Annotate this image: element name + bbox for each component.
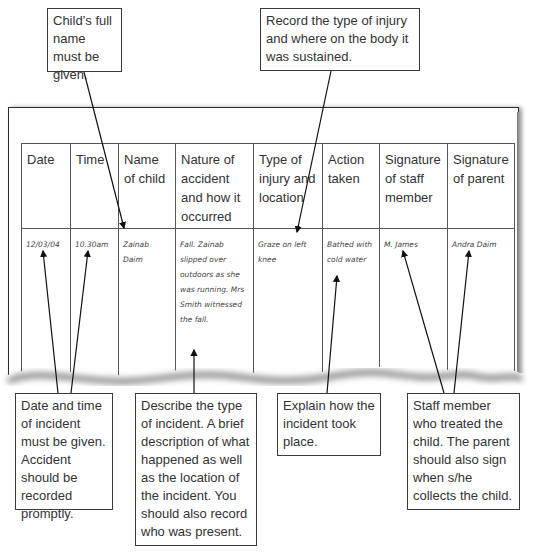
header-parent-signature: Signature of parent xyxy=(448,144,515,229)
callout-explain-incident: Explain how the incident took place. xyxy=(277,393,381,456)
header-date: Date xyxy=(22,144,71,229)
header-type-of-injury: Type of injury and location xyxy=(254,144,323,229)
header-name-of-child: Name of child xyxy=(119,144,176,229)
header-action-taken: Action taken xyxy=(323,144,380,229)
header-nature-of-accident: Nature of accident and how it occurred xyxy=(176,144,254,229)
callout-staff-member: Staff member who treated the child. The … xyxy=(407,393,520,510)
table-header-row: Date Time Name of child Nature of accide… xyxy=(22,144,515,229)
header-time: Time xyxy=(71,144,119,229)
callout-child-name: Child’s full name must be given. xyxy=(47,8,122,72)
header-staff-signature: Signature of staff member xyxy=(380,144,448,229)
callout-injury-record: Record the type of injury and where on t… xyxy=(260,8,420,71)
callout-describe-incident: Describe the type of incident. A brief d… xyxy=(135,393,257,546)
accident-record-table: Date Time Name of child Nature of accide… xyxy=(21,143,515,388)
paper-shadow xyxy=(517,112,523,377)
callout-date-time: Date and time of incident must be given.… xyxy=(15,393,113,510)
